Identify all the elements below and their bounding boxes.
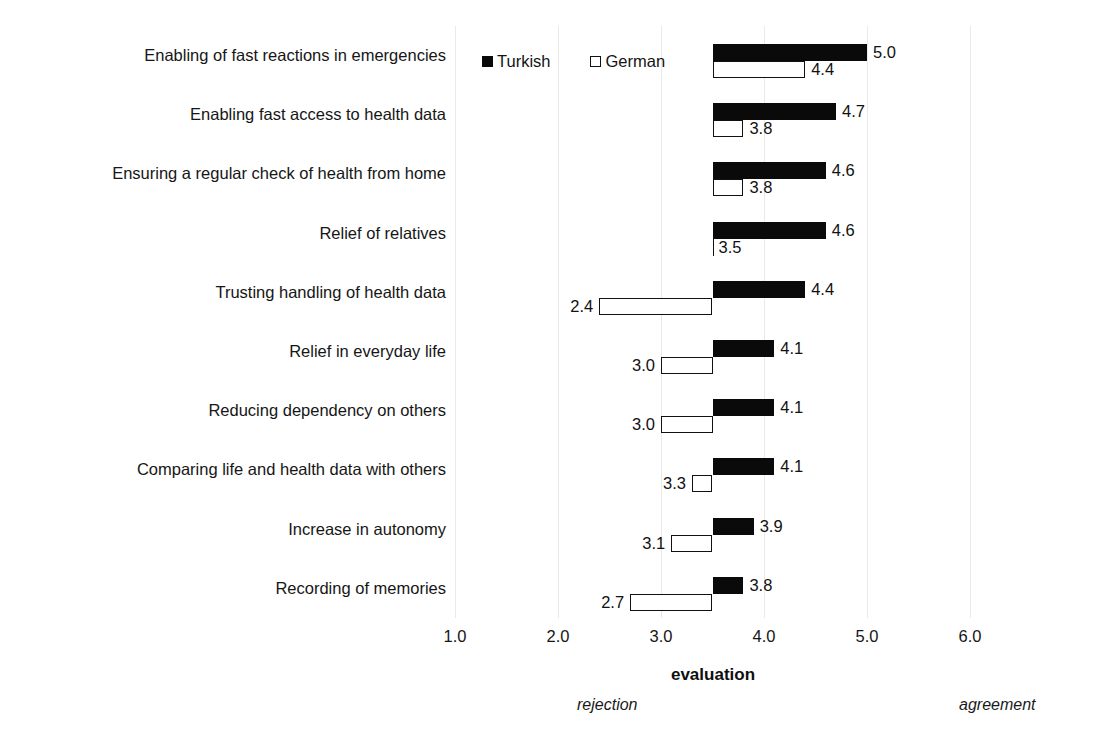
gridline-6.0 — [970, 26, 971, 618]
bar-turkish — [713, 103, 837, 120]
bar-german — [661, 357, 713, 374]
bar-german — [713, 179, 744, 196]
evaluation-bar-chart: Turkish German Enabling of fast reaction… — [0, 0, 1093, 748]
bar-value-label: 4.6 — [832, 162, 855, 179]
filled-square-icon — [482, 56, 493, 67]
x-tick-label: 4.0 — [753, 627, 776, 646]
legend-item-german: German — [590, 52, 665, 71]
x-axis: 1.02.03.04.05.06.0 — [455, 627, 970, 651]
bar-row: 4.13.3 — [455, 440, 970, 499]
bar-value-label: 2.4 — [570, 298, 593, 315]
bar-value-label: 4.6 — [832, 222, 855, 239]
bar-turkish — [713, 458, 775, 475]
bar-value-label: 3.5 — [719, 239, 742, 256]
bar-value-label: 3.1 — [642, 535, 665, 552]
category-label: Enabling fast access to health data — [0, 105, 446, 123]
bar-value-label: 2.7 — [601, 594, 624, 611]
bar-row: 4.63.8 — [455, 144, 970, 203]
category-label: Relief in everyday life — [0, 342, 446, 360]
legend-label-turkish: Turkish — [497, 52, 550, 71]
bar-value-label: 5.0 — [873, 44, 896, 61]
bar-value-label: 3.3 — [663, 475, 686, 492]
bar-row: 4.13.0 — [455, 381, 970, 440]
bar-turkish — [713, 44, 868, 61]
bar-value-label: 4.1 — [780, 340, 803, 357]
bar-value-label: 3.8 — [749, 577, 772, 594]
bar-turkish — [713, 399, 775, 416]
bar-row: 4.42.4 — [455, 263, 970, 322]
bar-value-label: 3.0 — [632, 357, 655, 374]
category-label: Relief of relatives — [0, 224, 446, 242]
bar-row: 3.93.1 — [455, 500, 970, 559]
category-label: Recording of memories — [0, 579, 446, 597]
bar-german — [630, 594, 712, 611]
scale-anchor-agreement: agreement — [959, 696, 1036, 714]
bar-turkish — [713, 340, 775, 357]
bar-value-label: 3.8 — [749, 120, 772, 137]
scale-anchor-rejection: rejection — [577, 696, 637, 714]
bar-turkish — [713, 518, 754, 535]
x-tick-label: 5.0 — [856, 627, 879, 646]
category-label: Increase in autonomy — [0, 520, 446, 538]
bar-row: 4.63.5 — [455, 204, 970, 263]
bar-german — [692, 475, 713, 492]
bar-value-label: 4.1 — [780, 399, 803, 416]
x-tick-label: 2.0 — [547, 627, 570, 646]
x-tick-label: 3.0 — [650, 627, 673, 646]
bar-german — [713, 239, 715, 256]
hollow-square-icon — [590, 56, 601, 67]
bar-german — [713, 61, 806, 78]
category-label: Comparing life and health data with othe… — [0, 460, 446, 478]
legend-item-turkish: Turkish — [482, 52, 550, 71]
bar-value-label: 4.4 — [811, 281, 834, 298]
bar-value-label: 3.0 — [632, 416, 655, 433]
bar-value-label: 4.7 — [842, 103, 865, 120]
bar-value-label: 4.4 — [811, 61, 834, 78]
bar-german — [713, 120, 744, 137]
bar-german — [661, 416, 713, 433]
category-label: Trusting handling of health data — [0, 283, 446, 301]
category-label: Ensuring a regular check of health from … — [0, 164, 446, 182]
bar-row: 3.82.7 — [455, 559, 970, 618]
bar-value-label: 3.8 — [749, 179, 772, 196]
x-tick-label: 1.0 — [444, 627, 467, 646]
bar-turkish — [713, 577, 744, 594]
category-label: Reducing dependency on others — [0, 401, 446, 419]
chart-legend: Turkish German — [482, 52, 665, 71]
bar-value-label: 4.1 — [780, 458, 803, 475]
x-axis-title: evaluation — [671, 665, 755, 685]
bar-german — [671, 535, 712, 552]
x-tick-label: 6.0 — [959, 627, 982, 646]
bar-turkish — [713, 222, 826, 239]
plot-area: 5.04.44.73.84.63.84.63.54.42.44.13.04.13… — [455, 26, 970, 618]
bar-turkish — [713, 162, 826, 179]
bar-row: 4.13.0 — [455, 322, 970, 381]
category-label: Enabling of fast reactions in emergencie… — [0, 46, 446, 64]
bar-value-label: 3.9 — [760, 518, 783, 535]
bar-german — [599, 298, 712, 315]
bar-row: 4.73.8 — [455, 85, 970, 144]
legend-label-german: German — [605, 52, 665, 71]
bar-turkish — [713, 281, 806, 298]
